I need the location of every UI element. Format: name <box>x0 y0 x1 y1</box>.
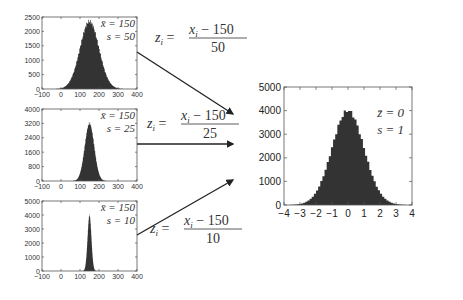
y-tick-label: 4000 <box>24 106 40 113</box>
histogram-3: −1000100200300400010002000300040005000x̄… <box>24 198 143 281</box>
svg-text:xi − 150: xi − 150 <box>183 213 229 230</box>
x-tick-label: −3 <box>294 208 306 219</box>
x-tick-label: 200 <box>93 91 105 98</box>
y-tick-label: 3000 <box>24 226 40 233</box>
x-tick-label: 2 <box>377 208 383 219</box>
z-score-diagram: −100010020030040005001000150020002500x̄ … <box>0 0 463 300</box>
svg-text:50: 50 <box>211 40 225 55</box>
y-tick-label: 4000 <box>24 212 40 219</box>
y-tick-label: 0 <box>36 178 40 185</box>
z-score-equation: zi = xi − 15025 <box>146 108 239 141</box>
x-tick-label: 100 <box>74 273 86 280</box>
histogram-4: −4−3−2−101234010002000300040005000z̄ = 0… <box>259 82 415 220</box>
x-tick-label: 300 <box>112 273 124 280</box>
y-tick-label: 5000 <box>24 198 40 205</box>
y-tick-label: 1000 <box>259 176 282 187</box>
y-tick-label: 0 <box>275 200 281 211</box>
y-tick-label: 0 <box>36 268 40 275</box>
histogram-1: −100010020030040005001000150020002500x̄ … <box>24 14 143 99</box>
y-tick-label: 800 <box>28 163 40 170</box>
x-tick-label: 300 <box>112 183 124 190</box>
y-tick-label: 1000 <box>24 57 40 64</box>
mean-annotation: z̄ = 0 <box>376 105 404 120</box>
svg-text:zi =: zi = <box>146 116 166 133</box>
y-tick-label: 0 <box>36 86 40 93</box>
svg-text:xi − 150: xi − 150 <box>180 108 226 125</box>
y-tick-label: 5000 <box>259 82 282 93</box>
y-tick-label: 2500 <box>24 14 40 21</box>
x-tick-label: 4 <box>409 208 415 219</box>
z-score-equation: zi = xi − 15050 <box>154 22 247 55</box>
x-tick-label: 0 <box>345 208 351 219</box>
x-tick-label: 400 <box>131 91 143 98</box>
x-tick-label: 300 <box>112 91 124 98</box>
x-tick-label: −2 <box>310 208 322 219</box>
x-tick-label: 200 <box>93 273 105 280</box>
histogram-bars <box>71 122 109 181</box>
transform-arrow <box>137 52 233 114</box>
sd-annotation: s = 10 <box>107 214 136 226</box>
y-tick-label: 2000 <box>24 240 40 247</box>
sd-annotation: s = 50 <box>107 30 136 42</box>
x-tick-label: 100 <box>74 183 86 190</box>
x-tick-label: 1 <box>361 208 367 219</box>
y-tick-label: 1600 <box>24 149 40 156</box>
y-tick-label: 500 <box>28 71 40 78</box>
y-tick-label: 2000 <box>259 152 282 163</box>
svg-text:25: 25 <box>203 126 217 141</box>
histogram-bars <box>82 214 97 271</box>
x-tick-label: 0 <box>59 91 63 98</box>
svg-text:xi − 150: xi − 150 <box>188 22 234 39</box>
x-tick-label: 0 <box>59 183 63 190</box>
sd-annotation: s = 1 <box>377 122 404 137</box>
mean-annotation: x̄ = 150 <box>100 17 136 29</box>
y-tick-label: 2400 <box>24 134 40 141</box>
mean-annotation: x̄ = 150 <box>100 201 136 213</box>
svg-text:10: 10 <box>206 231 220 246</box>
x-tick-label: 200 <box>93 183 105 190</box>
y-tick-label: 1000 <box>24 254 40 261</box>
z-score-equation: zi = xi − 15010 <box>149 213 242 246</box>
x-tick-label: 100 <box>74 91 86 98</box>
y-tick-label: 3000 <box>259 129 282 140</box>
y-tick-label: 3200 <box>24 120 40 127</box>
x-tick-label: 400 <box>131 273 143 280</box>
svg-text:zi =: zi = <box>149 221 169 238</box>
x-tick-label: 400 <box>131 183 143 190</box>
y-tick-label: 4000 <box>259 105 282 116</box>
histogram-2: −100010020030040008001600240032004000x̄ … <box>24 106 143 191</box>
sd-annotation: s = 25 <box>107 122 136 134</box>
x-tick-label: 0 <box>59 273 63 280</box>
mean-annotation: x̄ = 150 <box>100 109 136 121</box>
x-tick-label: 3 <box>393 208 399 219</box>
y-tick-label: 1500 <box>24 42 40 49</box>
x-tick-label: −1 <box>326 208 338 219</box>
svg-text:zi =: zi = <box>154 30 174 47</box>
y-tick-label: 2000 <box>24 28 40 35</box>
